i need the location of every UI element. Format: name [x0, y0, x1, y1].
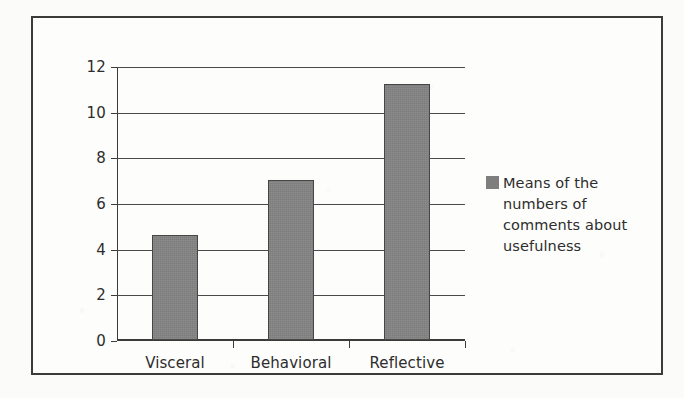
bar-visceral — [152, 235, 198, 340]
bar-texture — [269, 181, 313, 339]
gridline-12 — [117, 67, 465, 68]
legend-label: Means of the numbers of comments about u… — [503, 173, 658, 257]
y-tick-label-2: 2 — [96, 286, 106, 304]
y-tick-label-12: 12 — [87, 58, 107, 76]
y-tick-label-6: 6 — [96, 195, 106, 213]
y-tick-mark-4 — [111, 250, 117, 251]
y-tick-label-0: 0 — [96, 332, 106, 350]
y-tick-label-8: 8 — [96, 149, 106, 167]
bar-texture — [153, 236, 197, 339]
category-label-visceral: Visceral — [145, 354, 205, 372]
y-tick-mark-2 — [111, 295, 117, 296]
y-tick-mark-6 — [111, 204, 117, 205]
x-tick-mark-2 — [349, 341, 350, 348]
y-tick-label-10: 10 — [87, 104, 107, 122]
legend-swatch-icon — [486, 176, 499, 189]
bar-reflective — [384, 84, 430, 340]
y-tick-mark-10 — [111, 113, 117, 114]
x-tick-mark-3 — [465, 341, 466, 348]
plot-area: 024681012 VisceralBehavioralReflective — [117, 67, 465, 341]
bar-texture — [385, 85, 429, 339]
category-label-reflective: Reflective — [369, 354, 444, 372]
y-tick-mark-0 — [111, 341, 117, 342]
x-tick-mark-1 — [233, 341, 234, 348]
bar-behavioral — [268, 180, 314, 340]
y-tick-label-4: 4 — [96, 241, 106, 259]
category-label-behavioral: Behavioral — [251, 354, 332, 372]
legend: Means of the numbers of comments about u… — [486, 173, 658, 257]
y-tick-mark-8 — [111, 158, 117, 159]
y-tick-mark-12 — [111, 67, 117, 68]
chart-frame: 024681012 VisceralBehavioralReflective M… — [31, 16, 663, 375]
